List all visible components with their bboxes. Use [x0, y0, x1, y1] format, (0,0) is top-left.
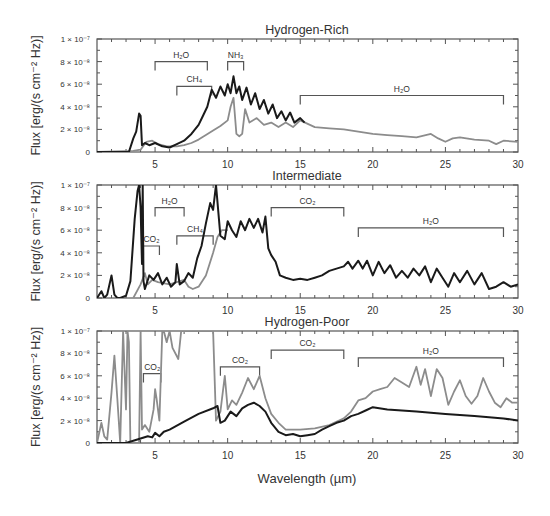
y-tick-label: 1 × 10⁻⁷: [61, 181, 90, 190]
band-label: H₂O: [423, 346, 439, 356]
y-tick-label: 8 × 10⁻⁸: [60, 204, 90, 213]
x-tick-label: 20: [367, 450, 379, 461]
band-bracket: [177, 236, 213, 245]
band-bracket: [143, 374, 160, 383]
band-label: H₂O: [423, 216, 439, 226]
band-bracket: [358, 228, 503, 237]
y-axis-label: Flux [erg/(s cm⁻² Hz)]: [29, 35, 43, 155]
x-tick-label: 25: [440, 159, 452, 170]
x-tick-label: 15: [295, 450, 307, 461]
band-bracket: [271, 208, 344, 217]
band-label: H₂O: [394, 84, 410, 94]
series-black: [97, 76, 305, 152]
y-tick-label: 1 × 10⁻⁷: [61, 35, 90, 44]
y-tick-label: 6 × 10⁻⁸: [60, 372, 90, 381]
x-tick-label: 5: [152, 159, 158, 170]
band-label: CO₂: [144, 362, 160, 372]
band-label: CH₄: [186, 74, 202, 84]
x-tick-label: 30: [512, 159, 524, 170]
spectra-figure: 5101520253002 × 10⁻⁸4 × 10⁻⁸6 × 10⁻⁸8 × …: [0, 0, 550, 516]
band-bracket: [300, 96, 503, 105]
band-label: CH₄: [187, 224, 203, 234]
x-tick-label: 25: [440, 305, 452, 316]
band-bracket: [220, 367, 259, 376]
panel-intermediate: 5101520253002 × 10⁻⁸4 × 10⁻⁸6 × 10⁻⁸8 × …: [29, 169, 524, 316]
x-tick-label: 5: [152, 305, 158, 316]
y-tick-label: 2 × 10⁻⁸: [60, 417, 90, 426]
band-label: CO₂: [143, 234, 159, 244]
band-label: NH₃: [228, 50, 244, 60]
y-tick-label: 0: [86, 294, 91, 303]
y-tick-label: 4 × 10⁻⁸: [60, 394, 90, 403]
series-gray: [97, 98, 518, 152]
y-tick-label: 6 × 10⁻⁸: [60, 226, 90, 235]
panel-title: Intermediate: [272, 169, 342, 183]
y-tick-label: 0: [86, 439, 91, 448]
x-tick-label: 10: [222, 159, 234, 170]
band-bracket: [143, 246, 159, 255]
y-tick-label: 4 × 10⁻⁸: [60, 249, 90, 258]
band-bracket: [358, 358, 503, 367]
y-tick-label: 4 × 10⁻⁸: [60, 103, 90, 112]
y-tick-label: 1 × 10⁻⁷: [61, 327, 90, 336]
panel-title: Hydrogen-Poor: [265, 315, 350, 329]
y-tick-label: 2 × 10⁻⁸: [60, 125, 90, 134]
y-tick-label: 8 × 10⁻⁸: [60, 349, 90, 358]
panel-hydrogen-rich: 5101520253002 × 10⁻⁸4 × 10⁻⁸6 × 10⁻⁸8 × …: [29, 23, 524, 170]
y-tick-label: 8 × 10⁻⁸: [60, 58, 90, 67]
x-tick-label: 20: [367, 159, 379, 170]
y-tick-label: 2 × 10⁻⁸: [60, 271, 90, 280]
x-tick-label: 5: [152, 450, 158, 461]
band-label: CO₂: [299, 338, 315, 348]
band-bracket: [271, 350, 344, 359]
x-tick-label: 30: [512, 305, 524, 316]
x-tick-label: 25: [440, 450, 452, 461]
band-label: CO₂: [232, 355, 248, 365]
y-axis-label: Flux [erg/(s cm⁻² Hz)]: [29, 327, 43, 447]
band-bracket: [155, 62, 207, 71]
band-bracket: [155, 208, 184, 217]
band-label: H₂O: [162, 196, 178, 206]
x-tick-label: 10: [222, 305, 234, 316]
x-tick-label: 10: [222, 450, 234, 461]
x-axis-label: Wavelength (µm): [258, 471, 357, 486]
y-tick-label: 6 × 10⁻⁸: [60, 80, 90, 89]
band-bracket: [228, 62, 244, 71]
panel-title: Hydrogen-Rich: [265, 23, 348, 37]
panel-hydrogen-poor: 5101520253002 × 10⁻⁸4 × 10⁻⁸6 × 10⁻⁸8 × …: [29, 315, 524, 461]
band-bracket: [177, 86, 212, 95]
x-tick-label: 20: [367, 305, 379, 316]
band-label: H₂O: [173, 50, 189, 60]
x-tick-label: 30: [512, 450, 524, 461]
band-label: CO₂: [299, 196, 315, 206]
y-tick-label: 0: [86, 148, 91, 157]
y-axis-label: Flux [erg/(s cm⁻² Hz)]: [29, 181, 43, 301]
